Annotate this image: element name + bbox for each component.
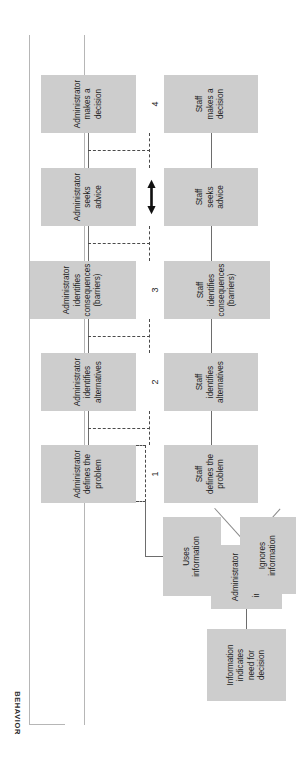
stage-number-1: 1 <box>150 467 160 481</box>
connector-s3-s4-dashed-left <box>88 243 150 244</box>
node-line: defines the <box>206 454 216 494</box>
node-stage-4-staff: Staff makes a decision <box>164 75 258 133</box>
connector-s4-s5-dashed-left <box>88 150 150 151</box>
node-line: identifies <box>206 361 216 403</box>
node-line: consequences <box>217 264 227 317</box>
node-line: decision <box>94 80 104 128</box>
node-information-indicates-need: Information indicates need for decision <box>207 629 286 701</box>
node-line: identifies <box>83 358 93 406</box>
node-line: information <box>268 535 278 576</box>
node-line: Administrator <box>73 358 83 406</box>
node-line: Staff <box>195 454 205 494</box>
connector-info-to-admin-receives <box>246 609 247 629</box>
node-line: consequences <box>83 264 93 317</box>
connector-s2-s3-dashed-left <box>88 336 150 337</box>
connector-s4-s5-staff <box>211 133 212 168</box>
node-line: Staff <box>195 361 205 403</box>
behavior-axis-line <box>29 35 30 725</box>
node-line: identifies <box>207 264 217 317</box>
node-stage-4-admin: Administrator makes a decision <box>41 75 136 133</box>
node-line: Ignores <box>258 535 268 576</box>
connector-stage1-hub <box>145 501 146 557</box>
node-ignores-information: Ignores information <box>240 517 296 594</box>
node-line: indicates <box>236 645 246 686</box>
node-line: advice <box>216 185 226 209</box>
node-line: makes a <box>206 89 216 120</box>
node-line: Uses <box>182 536 192 577</box>
node-line: Administrator <box>73 450 83 498</box>
node-line: Administrator <box>62 264 72 317</box>
node-line: (barriers) <box>227 264 237 317</box>
node-line: information <box>192 536 202 577</box>
node-line: Administrator <box>73 173 83 221</box>
node-stage-1-admin: Administrator defines the problem <box>41 445 136 503</box>
node-uses-information: Uses information <box>163 517 221 596</box>
node-line: makes a <box>83 80 93 128</box>
stage-number-3: 3 <box>150 283 160 297</box>
rotated-figure-stage: BEHAVIOR TIME Information indicates need… <box>0 0 303 759</box>
node-stage-seeks-advice-admin: Administrator seeks advice <box>41 168 136 226</box>
diagram-canvas: BEHAVIOR TIME Information indicates need… <box>0 0 303 759</box>
node-line: problem <box>216 454 226 494</box>
node-stage-2-staff: Staff identifies alternatives <box>164 353 258 411</box>
node-line: seeks <box>83 173 93 221</box>
node-line: Staff <box>195 185 205 209</box>
node-line: problem <box>94 450 104 498</box>
bidirectional-arrow-icon <box>147 176 156 218</box>
node-line: Administrator <box>73 80 83 128</box>
node-line: alternatives <box>216 361 226 403</box>
node-stage-3-admin: Administrator identifies consequences (b… <box>30 261 136 319</box>
node-line: defines the <box>83 450 93 498</box>
stage1-bracket-right <box>136 445 146 446</box>
behavior-axis-corner <box>29 724 65 725</box>
node-stage-2-admin: Administrator identifies alternatives <box>41 353 136 411</box>
stage-number-4: 4 <box>150 97 160 111</box>
connector-s3-s4-staff <box>211 226 212 261</box>
node-line: Staff <box>196 264 206 317</box>
stage-number-2: 2 <box>150 375 160 389</box>
connector-s2-s3-staff <box>211 319 212 353</box>
node-line: Information <box>226 645 236 686</box>
behavior-axis-label: BEHAVIOR <box>13 691 22 735</box>
node-line: advice <box>94 173 104 221</box>
node-line: (barriers) <box>93 264 103 317</box>
node-line: need for <box>247 645 257 686</box>
connector-uses-to-stage1 <box>145 556 163 557</box>
connector-s1-s2-staff <box>211 411 212 445</box>
connector-s1-s2-dashed-left <box>88 428 150 429</box>
node-line: seeks <box>206 185 216 209</box>
node-line: alternatives <box>94 358 104 406</box>
node-line: identifies <box>73 264 83 317</box>
node-stage-3-staff: Staff identifies consequences (barriers) <box>164 261 270 319</box>
node-line: decision <box>257 645 267 686</box>
node-stage-seeks-advice-staff: Staff seeks advice <box>164 168 258 226</box>
node-line: decision <box>216 89 226 120</box>
node-stage-1-staff: Staff defines the problem <box>164 445 258 503</box>
node-line: Staff <box>195 89 205 120</box>
stage1-bracket <box>145 445 146 502</box>
